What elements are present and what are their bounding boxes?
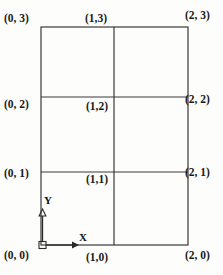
- label-point-0-3: (0, 3): [4, 12, 29, 24]
- x-axis-arrow-icon: [72, 242, 79, 249]
- label-point-2-3: (2, 3): [185, 9, 210, 21]
- label-point-1-1: (1,1): [86, 173, 108, 185]
- y-axis-arrow-icon: [39, 209, 46, 216]
- label-point-0-2: (0, 2): [4, 98, 29, 110]
- label-point-2-2: (2, 2): [185, 93, 210, 105]
- coordinate-grid-figure: (0, 3) (1,3) (2, 3) (0, 2) (1,2) (2, 2) …: [0, 0, 223, 275]
- label-point-1-3: (1,3): [85, 12, 107, 24]
- label-point-1-2: (1,2): [86, 100, 108, 112]
- label-point-1-0: (1,0): [86, 251, 108, 263]
- y-axis-label: Y: [44, 195, 52, 206]
- grid-lines: [0, 0, 223, 275]
- label-point-2-0: (2, 0): [185, 249, 210, 261]
- label-point-2-1: (2, 1): [185, 166, 210, 178]
- x-axis-label: X: [79, 232, 87, 243]
- label-point-0-0: (0, 0): [4, 249, 29, 261]
- label-point-0-1: (0, 1): [4, 167, 29, 179]
